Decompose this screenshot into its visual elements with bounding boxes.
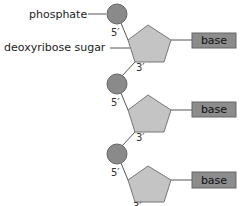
sugar-label: deoxyribose sugar — [4, 41, 106, 54]
phosphodiester-bond — [122, 132, 135, 146]
backbone-bond — [121, 163, 128, 180]
base-label: base — [201, 34, 227, 47]
phosphodiester-bond — [122, 62, 135, 76]
deoxyribose-pentagon — [128, 166, 171, 202]
prime-3-label: 3′ — [136, 132, 145, 143]
base-label: base — [201, 103, 227, 116]
phosphate-label: phosphate — [29, 8, 87, 21]
nucleotide-1: 5′ 3′ base — [107, 4, 236, 76]
prime-5-label: 5′ — [111, 97, 120, 108]
nucleotide-2: 5′ 3′ base — [107, 74, 236, 146]
deoxyribose-pentagon — [128, 25, 171, 62]
base-label: base — [201, 174, 227, 187]
prime-5-label: 5′ — [111, 167, 120, 178]
dna-strand-diagram: phosphate deoxyribose sugar 5′ 3′ base 5… — [0, 0, 244, 206]
phosphate-circle — [107, 74, 127, 94]
backbone-bond — [121, 93, 128, 110]
backbone-bond — [121, 23, 128, 40]
phosphate-circle — [107, 144, 127, 164]
prime-3-label: 3′ — [136, 62, 145, 73]
deoxyribose-pentagon — [128, 95, 171, 132]
phosphate-circle — [107, 4, 127, 24]
nucleotide-3: 5′ 3′ base — [107, 144, 236, 206]
prime-5-label: 5′ — [111, 27, 120, 38]
prime-3-label: 3′ — [133, 201, 142, 206]
